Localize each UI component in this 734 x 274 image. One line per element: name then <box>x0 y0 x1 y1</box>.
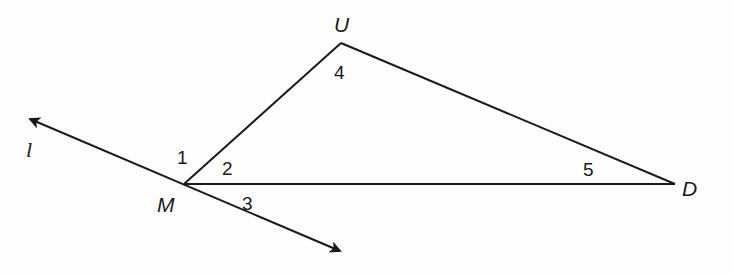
point-label-m: M <box>157 193 175 216</box>
angle-label-3: 3 <box>242 193 253 214</box>
line-label-l: l <box>26 137 32 162</box>
diagram-svg: U M D l 1 2 3 4 5 <box>0 0 734 274</box>
angle-label-4: 4 <box>334 62 345 83</box>
point-label-d: D <box>682 177 697 200</box>
angle-label-5: 5 <box>583 159 594 180</box>
point-label-u: U <box>334 13 350 36</box>
angle-label-2: 2 <box>222 158 233 179</box>
geometry-diagram: U M D l 1 2 3 4 5 <box>0 0 734 274</box>
segment-mu <box>184 43 341 184</box>
angle-label-1: 1 <box>177 147 188 168</box>
segment-ud <box>341 43 675 184</box>
